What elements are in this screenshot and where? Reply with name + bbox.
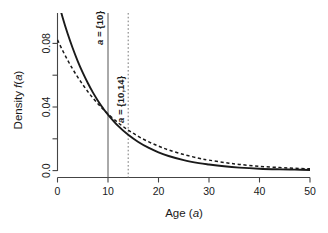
y-axis-title-plain: Density: [12, 91, 24, 130]
x-axis-ticks: [58, 178, 311, 183]
x-tick-label-3: 30: [203, 185, 215, 197]
reference-label-a10-rest: = {10}: [94, 11, 105, 40]
reference-label-a10-14-rest: = {10,14}: [115, 75, 126, 117]
chart-canvas: 0.0 0.04 0.08 Density f(a) 0 10 20 30 40…: [0, 0, 328, 233]
y-tick-label-1: 0.04: [40, 97, 52, 118]
x-axis-title-plain: Age: [165, 207, 185, 219]
y-axis-title: Density f(a): [12, 70, 24, 129]
y-tick-label-2: 0.08: [40, 33, 52, 54]
x-tick-label-2: 20: [153, 185, 165, 197]
x-tick-label-1: 10: [102, 185, 114, 197]
x-tick-label-5: 50: [304, 185, 316, 197]
y-axis-ticks: [53, 43, 58, 170]
reference-label-a10: a = {10}: [94, 11, 105, 45]
x-tick-label-0: 0: [55, 185, 61, 197]
x-axis-title: Age (a): [165, 207, 203, 219]
y-tick-label-0: 0.0: [40, 163, 52, 178]
reference-label-a10-14: a = {10,14}: [115, 75, 126, 123]
density-curve-a10-14: [58, 40, 311, 169]
x-tick-label-4: 40: [254, 185, 266, 197]
density-chart-figure: 0.0 0.04 0.08 Density f(a) 0 10 20 30 40…: [0, 0, 328, 233]
